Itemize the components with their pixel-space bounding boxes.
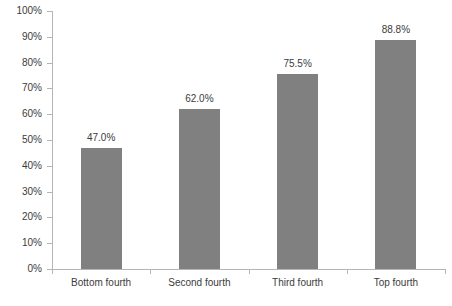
bar (375, 40, 416, 269)
bar (179, 109, 220, 269)
bar (277, 74, 318, 269)
x-axis-tick (52, 269, 53, 274)
y-axis-tick (47, 166, 52, 167)
y-axis-tick-label: 30% (0, 187, 42, 197)
x-axis-category-label: Top fourth (336, 277, 452, 289)
y-axis-tick-label: 60% (0, 109, 42, 119)
y-axis-tick (47, 37, 52, 38)
y-axis-tick-label: 20% (0, 212, 42, 222)
y-axis-tick (47, 63, 52, 64)
y-axis-tick (47, 88, 52, 89)
bar-value-label: 62.0% (159, 94, 239, 104)
y-axis-tick (47, 192, 52, 193)
y-axis-tick (47, 11, 52, 12)
x-axis-tick (347, 269, 348, 274)
y-axis-tick (47, 217, 52, 218)
y-axis-line (52, 11, 53, 270)
y-axis-tick-label: 100% (0, 6, 42, 16)
y-axis-tick-label: 50% (0, 135, 42, 145)
x-axis-tick (445, 269, 446, 274)
y-axis-tick-label: 10% (0, 238, 42, 248)
y-axis-tick (47, 114, 52, 115)
bar-chart: 0%10%20%30%40%50%60%70%80%90%100% 47.0%6… (0, 0, 452, 306)
y-axis-tick (47, 243, 52, 244)
x-axis-tick (249, 269, 250, 274)
y-axis-tick-label: 0% (0, 264, 42, 274)
y-axis-tick-label: 40% (0, 161, 42, 171)
y-axis-tick (47, 140, 52, 141)
y-axis-tick-label: 90% (0, 32, 42, 42)
x-axis-tick (150, 269, 151, 274)
bar-value-label: 47.0% (61, 133, 141, 143)
bar-value-label: 88.8% (356, 25, 436, 35)
y-axis-tick-label: 80% (0, 58, 42, 68)
bar-value-label: 75.5% (258, 59, 338, 69)
bar (81, 148, 122, 269)
y-axis-tick-label: 70% (0, 83, 42, 93)
